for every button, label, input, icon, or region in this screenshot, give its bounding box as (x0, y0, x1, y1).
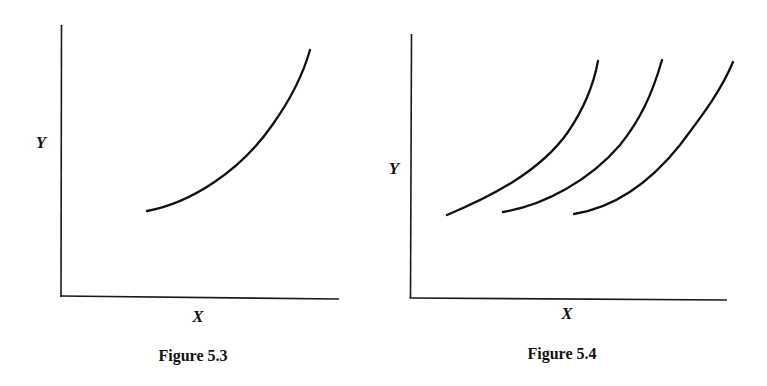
figure-5-4: Y X Figure 5.4 (380, 0, 767, 386)
figure-caption: Figure 5.3 (158, 348, 227, 364)
curve-1 (447, 61, 598, 215)
figure-caption: Figure 5.4 (527, 346, 596, 362)
x-axis-label: X (561, 305, 572, 322)
figure-5-4-plot (380, 0, 767, 386)
curve (147, 50, 310, 211)
figure-5-3-plot (0, 0, 384, 386)
x-axis (410, 298, 728, 300)
y-axis (411, 34, 412, 298)
x-axis-label: X (192, 308, 203, 325)
figure-5-3: Y X Figure 5.3 (0, 0, 384, 386)
y-axis (61, 25, 62, 297)
curve-2 (503, 60, 662, 212)
y-axis-label: Y (36, 134, 46, 151)
x-axis (61, 296, 340, 299)
y-axis-label: Y (389, 160, 399, 177)
